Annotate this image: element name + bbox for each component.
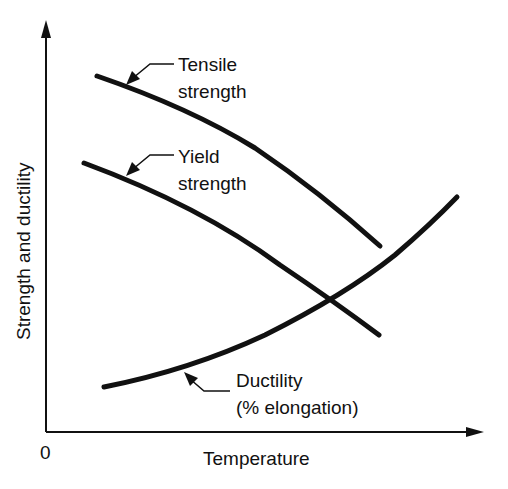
ductility-curve bbox=[104, 197, 457, 387]
ductility-label-line2: (% elongation) bbox=[236, 397, 359, 418]
strength-ductility-diagram: Tensile strength Yield strength Ductilit… bbox=[0, 0, 508, 489]
x-axis-arrow-icon bbox=[466, 427, 484, 437]
origin-label: 0 bbox=[40, 442, 51, 463]
tensile-label-line1: Tensile bbox=[178, 54, 237, 75]
tensile-leader bbox=[133, 64, 174, 78]
yield-leader bbox=[133, 155, 174, 169]
yield-label-line1: Yield bbox=[178, 146, 220, 167]
x-axis-title: Temperature bbox=[203, 448, 310, 469]
y-axis-title: Strength and ductility bbox=[13, 162, 34, 340]
ductility-label-line1: Ductility bbox=[236, 370, 303, 391]
ductility-leader bbox=[190, 379, 230, 391]
y-axis-arrow-icon bbox=[41, 20, 51, 38]
tensile-label-line2: strength bbox=[178, 81, 247, 102]
yield-label-line2: strength bbox=[178, 173, 247, 194]
